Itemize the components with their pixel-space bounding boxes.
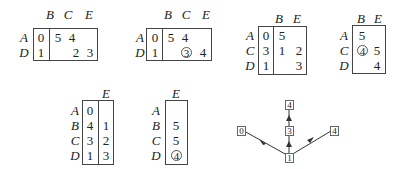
node-top: 4	[285, 100, 294, 110]
node-right: 4	[330, 126, 339, 136]
node-center: 1	[285, 153, 294, 163]
node-left: 0	[237, 126, 246, 136]
graph-edges	[0, 0, 404, 169]
node-mid: 3	[285, 126, 294, 136]
